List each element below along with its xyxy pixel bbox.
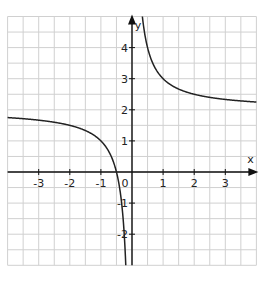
y-tick-label: 4	[121, 42, 128, 55]
y-tick-label: -2	[117, 228, 128, 241]
x-tick-label: 2	[191, 177, 198, 190]
y-tick-label: 1	[121, 135, 128, 148]
x-axis-label: x	[247, 153, 254, 166]
function-graph: -3-2-112304321-1-2xy	[0, 0, 264, 282]
origin-label: 0	[122, 177, 129, 190]
x-tick-label: -1	[95, 177, 106, 190]
y-axis-label: y	[135, 19, 142, 32]
x-tick-label: -2	[64, 177, 75, 190]
x-tick-label: -3	[33, 177, 44, 190]
x-tick-label: 1	[160, 177, 167, 190]
y-tick-label: 3	[121, 73, 128, 86]
y-tick-label: 2	[121, 104, 128, 117]
curve-right-branch	[142, 17, 256, 103]
x-tick-label: 3	[222, 177, 229, 190]
curve-left-branch	[8, 118, 126, 266]
